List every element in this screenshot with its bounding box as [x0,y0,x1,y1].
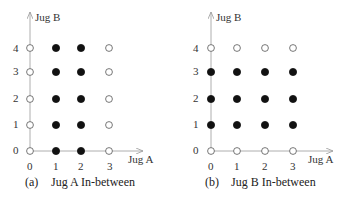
filled-state-point [207,68,214,75]
state-points [27,44,113,154]
filled-state-point [52,121,59,128]
caption-tag: (b) [205,175,219,189]
x-axis-label: Jug A [308,153,333,165]
y-tick: 0 [13,144,19,156]
y-axis-label: Jug B [216,11,241,23]
y-tick: 2 [13,92,19,104]
open-state-point [208,148,215,155]
open-state-point [106,148,113,155]
caption-text: Jug A In-between [51,175,135,189]
open-state-point [27,96,34,103]
filled-state-point [261,68,268,75]
open-state-point [27,45,34,52]
filled-state-point [52,95,59,102]
open-state-point [106,45,113,52]
y-tick: 3 [13,65,19,77]
open-state-point [262,148,269,155]
filled-state-point [261,95,268,102]
x-tick: 2 [262,160,268,172]
jug-state-diagram: Jug B Jug A 0 1 2 3 0 1 2 3 4 (a) Jug A … [0,0,342,201]
filled-state-point [261,121,268,128]
open-state-point [27,122,34,129]
filled-state-point [289,68,296,75]
y-axis-label: Jug B [35,11,60,23]
y-tick: 1 [193,118,199,130]
x-axis-label: Jug A [128,153,153,165]
x-tick: 1 [234,160,240,172]
filled-state-point [207,95,214,102]
filled-state-point [233,68,240,75]
filled-state-point [77,44,84,51]
filled-state-point [233,121,240,128]
filled-state-point [233,95,240,102]
filled-state-point [77,68,84,75]
open-state-point [27,148,34,155]
panel-b: Jug B Jug A 0 1 2 3 0 1 2 3 4 (b) Jug B … [193,11,333,189]
caption-tag: (a) [25,175,38,189]
state-points [207,45,296,155]
x-tick: 3 [290,160,296,172]
x-tick: 0 [208,160,214,172]
filled-state-point [289,95,296,102]
y-tick: 2 [193,92,199,104]
x-tick: 2 [78,160,84,172]
open-state-point [290,45,297,52]
filled-state-point [77,95,84,102]
open-state-point [106,96,113,103]
x-tick: 1 [53,160,59,172]
open-state-point [106,69,113,76]
open-state-point [106,122,113,129]
open-state-point [262,45,269,52]
open-state-point [290,148,297,155]
filled-state-point [207,121,214,128]
filled-state-point [52,147,59,154]
open-state-point [234,45,241,52]
y-tick: 4 [13,42,19,54]
open-state-point [208,45,215,52]
filled-state-point [289,121,296,128]
y-tick: 4 [193,42,199,54]
filled-state-point [52,44,59,51]
filled-state-point [77,147,84,154]
caption-text: Jug B In-between [231,175,316,189]
filled-state-point [77,121,84,128]
filled-state-point [52,68,59,75]
x-tick: 3 [107,160,113,172]
open-state-point [234,148,241,155]
open-state-point [27,69,34,76]
y-tick: 1 [13,118,19,130]
panel-a: Jug B Jug A 0 1 2 3 0 1 2 3 4 (a) Jug A … [13,11,153,189]
y-tick: 3 [193,65,199,77]
y-tick: 0 [193,144,199,156]
x-tick: 0 [27,160,33,172]
